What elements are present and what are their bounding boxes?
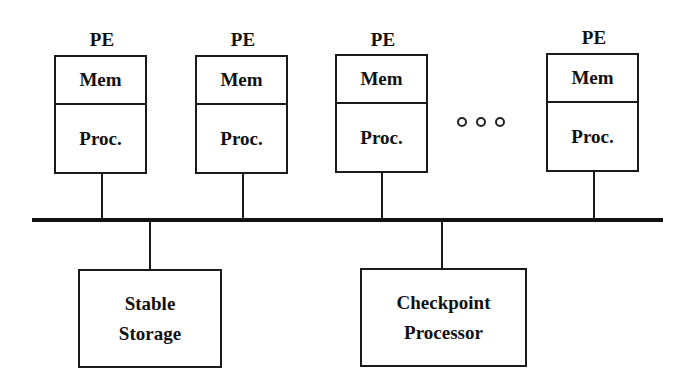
system-bus	[32, 218, 663, 222]
pe-connector	[593, 172, 595, 220]
pe-connector	[101, 174, 103, 220]
memory-block: Mem	[56, 57, 145, 105]
processing-element: Mem Proc.	[195, 55, 288, 174]
processor-block: Proc.	[56, 105, 145, 172]
stable-storage-box: Stable Storage	[78, 269, 222, 368]
diagram-canvas: PE Mem Proc. PE Mem Proc. PE Mem Proc. P…	[0, 0, 694, 384]
circle-icon	[457, 117, 467, 127]
storage-connector	[149, 222, 151, 270]
processor-block: Proc.	[197, 105, 286, 172]
ellipsis-icon	[457, 117, 505, 127]
memory-block: Mem	[548, 55, 637, 103]
device-label-line2: Processor	[397, 318, 491, 348]
processing-element: Mem Proc.	[546, 53, 639, 172]
device-label-line1: Stable	[119, 289, 181, 319]
processing-element: Mem Proc.	[54, 55, 147, 174]
circle-icon	[476, 117, 486, 127]
processing-element: Mem Proc.	[335, 54, 428, 173]
memory-block: Mem	[337, 56, 426, 104]
device-label-line1: Checkpoint	[397, 288, 491, 318]
pe-connector	[381, 173, 383, 220]
pe-label: PE	[195, 29, 291, 51]
processor-block: Proc.	[337, 104, 426, 171]
pe-connector	[242, 174, 244, 220]
processor-block: Proc.	[548, 103, 637, 170]
device-label-line2: Storage	[119, 319, 181, 349]
circle-icon	[495, 117, 505, 127]
pe-label: PE	[546, 27, 642, 49]
pe-label: PE	[335, 29, 431, 51]
checkpoint-connector	[441, 222, 443, 269]
checkpoint-processor-box: Checkpoint Processor	[360, 268, 527, 367]
memory-block: Mem	[197, 57, 286, 105]
pe-label: PE	[54, 29, 150, 51]
